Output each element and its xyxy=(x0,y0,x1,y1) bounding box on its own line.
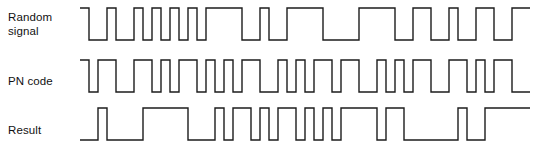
waveform-row-pn-code: PN code xyxy=(0,52,537,100)
row-label-random-signal: Random signal xyxy=(8,10,52,38)
waveform-row-random-signal: Random signal xyxy=(0,0,537,52)
waveform-path-pn-code xyxy=(80,60,530,92)
row-label-result: Result xyxy=(8,123,41,137)
waveform-result xyxy=(76,100,537,153)
waveform-path-result xyxy=(80,108,530,140)
waveform-pn-code xyxy=(76,52,537,100)
waveform-row-result: Result xyxy=(0,100,537,153)
waveform-path-random-signal xyxy=(80,8,530,40)
dsss-waveform-figure: Random signal PN code Result xyxy=(0,0,537,153)
waveform-random-signal xyxy=(76,0,537,52)
row-label-pn-code: PN code xyxy=(8,74,53,88)
